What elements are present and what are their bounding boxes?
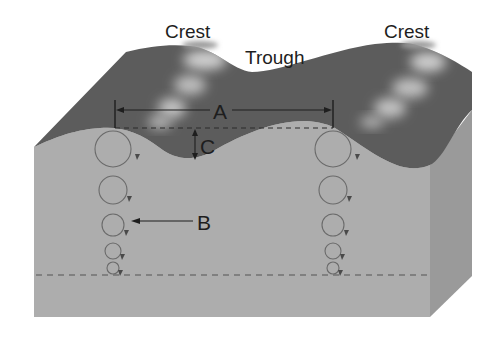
label-a: A [213, 101, 227, 122]
crest-label-left: Crest [165, 22, 210, 41]
crest-spray-right [400, 41, 436, 49]
label-b: B [197, 212, 211, 233]
crest-label-right: Crest [384, 22, 429, 41]
trough-label: Trough [245, 48, 305, 67]
crest-spray-left [182, 41, 218, 49]
label-c: C [200, 136, 215, 157]
